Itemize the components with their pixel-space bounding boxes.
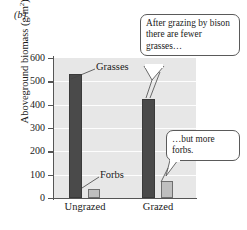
y-tick-label-500: 500: [15, 75, 45, 86]
y-tick-600: [48, 58, 53, 59]
y-tick-100: [48, 175, 53, 176]
callout-grasses: After grazing by bison there are fewer g…: [140, 14, 240, 56]
x-axis-line: [53, 198, 197, 199]
callout-forbs: …but more forbs.: [166, 130, 240, 161]
y-axis-title-superscript: 2: [18, 3, 26, 7]
y-tick-200: [48, 151, 53, 152]
bar-grazed-grasses: [142, 99, 155, 198]
y-tick-300: [48, 128, 53, 129]
y-tick-label-600: 600: [15, 52, 45, 63]
bar-grazed-forbs: [161, 181, 173, 198]
y-axis-line: [53, 56, 54, 200]
y-tick-label-200: 200: [15, 145, 45, 156]
y-tick-500: [48, 81, 53, 82]
y-tick-label-100: 100: [15, 169, 45, 180]
y-tick-400: [48, 105, 53, 106]
y-tick-label-300: 300: [15, 122, 45, 133]
figure-panel-b: (b) Aboveground biomass (g/m2) 600 500 4…: [0, 0, 247, 230]
plot-area: [54, 58, 196, 198]
series-label-forbs: Forbs: [100, 169, 124, 180]
y-axis-title-close: ): [19, 0, 30, 3]
bar-ungrazed-grasses: [69, 74, 82, 198]
bar-ungrazed-forbs: [88, 189, 100, 198]
x-category-label-grazed: Grazed: [113, 201, 203, 212]
y-tick-0: [48, 198, 53, 199]
y-axis-title: Aboveground biomass (g/m2): [18, 0, 31, 141]
y-tick-label-400: 400: [15, 99, 45, 110]
series-label-grasses: Grasses: [96, 61, 129, 72]
